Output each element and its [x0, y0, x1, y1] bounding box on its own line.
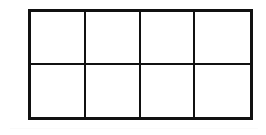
scan-artifact-line	[10, 128, 258, 129]
grid-cell	[31, 65, 86, 118]
grid-cell	[86, 65, 141, 118]
figure-canvas	[0, 0, 266, 135]
grid-cell	[31, 12, 86, 65]
grid-cell	[141, 65, 196, 118]
grid-cell	[195, 12, 250, 65]
grid-cell	[195, 65, 250, 118]
grid-cell	[141, 12, 196, 65]
rectangle-grid	[28, 9, 253, 120]
grid-cell	[86, 12, 141, 65]
